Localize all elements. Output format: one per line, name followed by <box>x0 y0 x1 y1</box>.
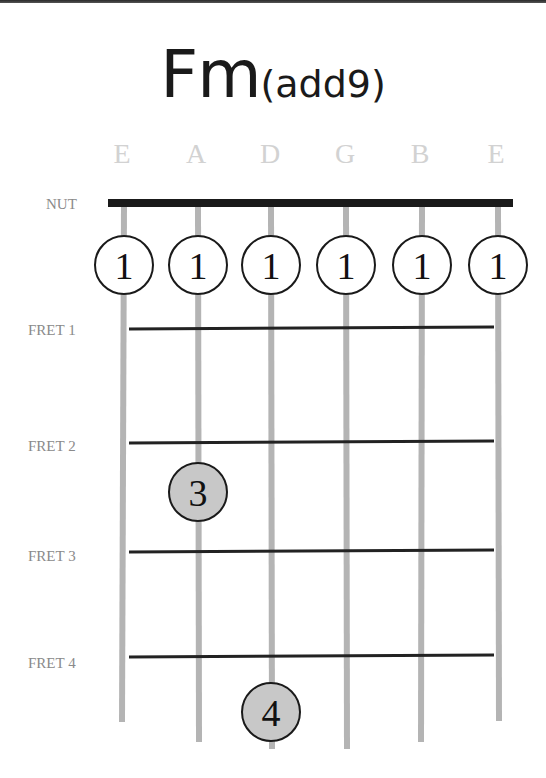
finger-number: 1 <box>115 245 134 287</box>
string-names: E A D G B E <box>113 138 504 169</box>
finger-marker-string-5: 1 <box>393 236 451 294</box>
finger-marker-string-3: 1 <box>242 236 300 294</box>
finger-number: 1 <box>413 245 432 287</box>
finger-number: 1 <box>262 245 281 287</box>
finger-number: 1 <box>489 245 508 287</box>
string-name-4: G <box>335 138 355 169</box>
fret-label-4: FRET 4 <box>28 655 76 671</box>
fretted-markers: 3 4 <box>169 463 300 741</box>
string-name-5: B <box>411 138 430 169</box>
string-name-3: D <box>260 138 280 169</box>
finger-number: 4 <box>262 692 281 734</box>
finger-marker-d-fret-4: 4 <box>242 683 300 741</box>
string-name-6: E <box>487 138 504 169</box>
nut-bar <box>108 199 513 207</box>
fret-label-2: FRET 2 <box>28 438 76 454</box>
fret-label-1: FRET 1 <box>28 322 76 338</box>
finger-number: 1 <box>189 245 208 287</box>
finger-marker-string-2: 1 <box>169 236 227 294</box>
fret-line-3 <box>129 550 494 552</box>
nut-label: NUT <box>46 196 77 212</box>
finger-marker-string-1: 1 <box>95 236 153 294</box>
fret-line-4 <box>129 655 494 657</box>
open-row-markers: 1 1 1 1 1 1 <box>95 236 527 294</box>
finger-marker-a-fret-2: 3 <box>169 463 227 521</box>
fret-labels: NUT FRET 1 FRET 2 FRET 3 FRET 4 <box>28 196 77 671</box>
string-name-2: A <box>186 138 207 169</box>
chord-diagram: E A D G B E NUT FRET 1 FRET 2 FRET 3 FRE… <box>0 0 546 778</box>
fret-line-2 <box>129 441 494 443</box>
finger-number: 1 <box>337 245 356 287</box>
finger-number: 3 <box>189 472 208 514</box>
fret-line-1 <box>129 327 494 329</box>
finger-marker-string-4: 1 <box>317 236 375 294</box>
fret-label-3: FRET 3 <box>28 548 76 564</box>
finger-marker-string-6: 1 <box>469 236 527 294</box>
string-name-1: E <box>113 138 130 169</box>
